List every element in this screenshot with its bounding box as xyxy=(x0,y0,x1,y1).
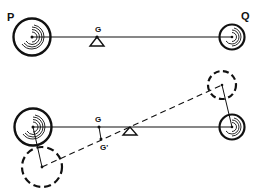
label-q: Q xyxy=(241,10,250,22)
displaced-rod xyxy=(42,85,222,167)
bottom-balance: G G' xyxy=(15,71,245,187)
fulcrum-bottom xyxy=(123,127,137,135)
top-balance: P Q G xyxy=(7,10,250,56)
label-p: P xyxy=(7,11,14,23)
link-q xyxy=(222,85,232,127)
centre-of-gravity: G G' xyxy=(95,115,108,152)
balance-diagram: P Q G xyxy=(0,0,261,195)
label-g-prime: G' xyxy=(100,143,108,152)
fulcrum-top: G xyxy=(90,25,104,46)
label-g-top: G xyxy=(95,25,101,34)
label-g-bottom: G xyxy=(95,115,101,124)
g-displacement xyxy=(99,127,101,139)
